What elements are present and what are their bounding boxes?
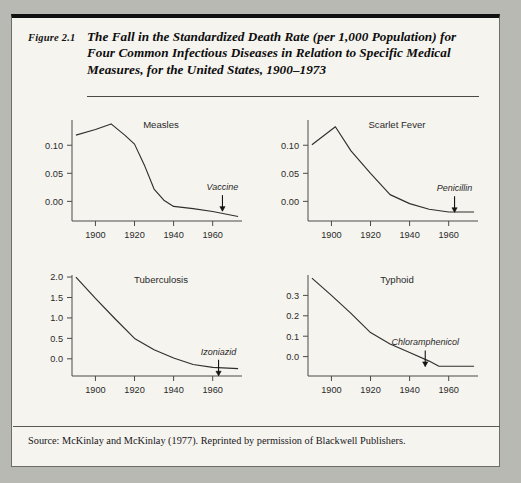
- chart-title: Scarlet Fever: [368, 119, 426, 130]
- x-tick-label: 1940: [399, 385, 419, 395]
- y-tick-label: 0.0: [286, 352, 299, 362]
- data-line: [312, 278, 474, 366]
- y-tick-label: 0.00: [281, 197, 299, 207]
- chart-tuberculosis: 0.00.51.01.52.01900192019401960Tuberculo…: [26, 261, 251, 406]
- x-tick-label: 1920: [360, 385, 380, 395]
- data-line: [76, 124, 238, 217]
- chart-scarlet-fever: 0.000.050.101900192019401960Scarlet Feve…: [262, 106, 487, 251]
- x-tick-label: 1920: [124, 230, 144, 240]
- chart-title: Typhoid: [380, 274, 414, 285]
- chart-panel-typhoid: 0.00.10.20.31900192019401960TyphoidChlor…: [262, 261, 487, 406]
- chart-panel-scarlet-fever: 0.000.050.101900192019401960Scarlet Feve…: [262, 106, 487, 251]
- data-line: [312, 127, 474, 212]
- x-tick-label: 1960: [202, 385, 222, 395]
- x-tick-label: 1940: [163, 230, 183, 240]
- chart-measles: 0.000.050.101900192019401960MeaslesVacci…: [26, 106, 251, 251]
- x-tick-label: 1960: [438, 230, 458, 240]
- y-tick-label: 0.05: [281, 169, 299, 179]
- intervention-annotation: Penicillin: [437, 183, 473, 193]
- y-tick-label: 2.0: [50, 272, 63, 282]
- source-divider: [13, 426, 500, 427]
- figure-page: Figure 2.1 The Fall in the Standardized …: [11, 14, 500, 467]
- y-tick-label: 0.05: [45, 169, 63, 179]
- figure-title: The Fall in the Standardized Death Rate …: [87, 29, 482, 78]
- axis-lines: [308, 275, 478, 376]
- x-tick-label: 1900: [321, 385, 341, 395]
- y-tick-label: 0.1: [286, 332, 299, 342]
- y-tick-label: 0.3: [286, 291, 299, 301]
- y-tick-label: 0.10: [45, 141, 63, 151]
- x-tick-label: 1900: [321, 230, 341, 240]
- figure-number: Figure 2.1: [28, 32, 76, 43]
- annotation-arrowhead: [220, 207, 225, 212]
- x-tick-label: 1920: [360, 230, 380, 240]
- title-divider: [87, 96, 479, 97]
- chart-panel-tuberculosis: 0.00.51.01.52.01900192019401960Tuberculo…: [26, 261, 251, 406]
- y-tick-label: 0.2: [286, 311, 299, 321]
- axis-lines: [72, 120, 242, 221]
- intervention-annotation: Chloramphenicol: [391, 337, 460, 347]
- y-tick-label: 1.0: [50, 313, 63, 323]
- chart-typhoid: 0.00.10.20.31900192019401960TyphoidChlor…: [262, 261, 487, 406]
- y-tick-label: 1.5: [50, 293, 63, 303]
- x-tick-label: 1940: [163, 385, 183, 395]
- axis-lines: [308, 120, 478, 221]
- chart-title: Measles: [143, 119, 179, 130]
- chart-title: Tuberculosis: [134, 274, 188, 285]
- y-tick-label: 0.00: [45, 197, 63, 207]
- y-tick-label: 0.5: [50, 334, 63, 344]
- intervention-annotation: Izoniazid: [201, 347, 238, 357]
- chart-panel-measles: 0.000.050.101900192019401960MeaslesVacci…: [26, 106, 251, 251]
- y-tick-label: 0.0: [50, 354, 63, 364]
- y-tick-label: 0.10: [281, 141, 299, 151]
- annotation-arrowhead: [423, 362, 428, 367]
- x-tick-label: 1940: [399, 230, 419, 240]
- annotation-arrowhead: [216, 371, 221, 376]
- x-tick-label: 1900: [85, 385, 105, 395]
- source-caption: Source: McKinlay and McKinlay (1977). Re…: [28, 435, 406, 446]
- x-tick-label: 1960: [438, 385, 458, 395]
- x-tick-label: 1900: [85, 230, 105, 240]
- x-tick-label: 1920: [124, 385, 144, 395]
- axis-lines: [72, 275, 242, 376]
- x-tick-label: 1960: [202, 230, 222, 240]
- intervention-annotation: Vaccine: [207, 182, 239, 192]
